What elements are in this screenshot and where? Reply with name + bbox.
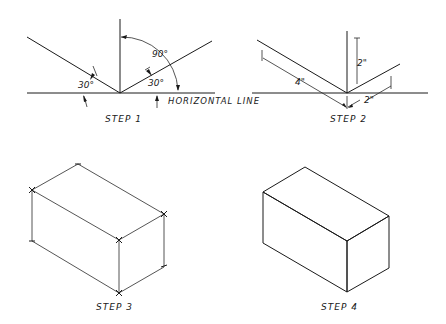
angle-top-label: 90° (152, 49, 168, 59)
dim-4in-label: 4" (295, 77, 305, 87)
arrow-icon (176, 85, 180, 91)
step-4-label: STEP 4 (321, 302, 358, 312)
right-iso-line (347, 64, 400, 93)
dim-2in-right-label: 2" (364, 95, 374, 105)
box-edge (32, 241, 119, 293)
box-right-face (347, 216, 389, 292)
arrow-icon (155, 95, 159, 101)
angle-left-label: 30° (78, 80, 94, 90)
arrow-right-upper (145, 67, 150, 70)
horizontal-line-label: HORIZONTAL LINE (168, 96, 260, 106)
step-3-label: STEP 3 (96, 302, 133, 312)
box-top-face (263, 167, 389, 241)
step-2-figure: 4" 2" 2" STEP 2 (252, 31, 428, 124)
step-3-figure: STEP 3 (29, 164, 167, 312)
box-top-face (32, 164, 164, 240)
dim-2in-vertical-label: 2" (357, 58, 367, 68)
step-1-figure: 30° 30° 90° HORIZONTAL LINE STEP 1 (27, 19, 260, 124)
arrow-icon (121, 35, 127, 39)
arrow-icon (90, 73, 95, 80)
dim-line (348, 100, 360, 107)
box-edge (119, 267, 164, 293)
step-1-label: STEP 1 (105, 114, 142, 124)
arrow-icon (146, 69, 152, 76)
arrow-icon (83, 95, 87, 102)
left-30-line (27, 37, 120, 93)
diagram-canvas: 30° 30° 90° HORIZONTAL LINE STEP 1 4" 2"… (0, 0, 446, 324)
angle-right-label: 30° (148, 78, 164, 88)
construction-ticks (29, 164, 167, 296)
step-2-label: STEP 2 (330, 114, 367, 124)
step-4-figure: STEP 4 (263, 167, 389, 312)
box-left-face (263, 192, 347, 292)
